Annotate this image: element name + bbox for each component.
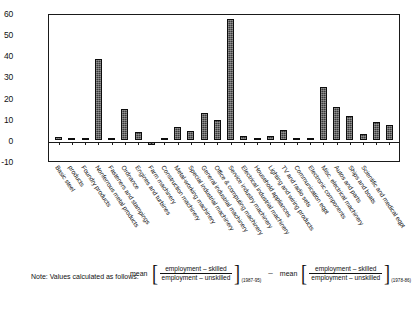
bar-slot: [171, 15, 184, 161]
minus-operator: –: [268, 269, 272, 277]
bar-slot: [118, 15, 131, 161]
bar: [121, 109, 128, 140]
bar-slot: [383, 15, 396, 161]
x-tick-mark: [59, 142, 60, 145]
bar: [174, 127, 181, 140]
x-label-slot: TV and radio sets: [277, 163, 290, 259]
bar-slot: [65, 15, 78, 161]
bar-slot: [158, 15, 171, 161]
bar: [373, 122, 380, 140]
x-tick-mark: [363, 142, 364, 145]
bar-slot: [330, 15, 343, 161]
bar-slot: [343, 15, 356, 161]
chart-figure: 6050403020100-10 Basic steelproductsFoun…: [0, 0, 417, 314]
x-label-slot: Basic steel: [51, 163, 64, 259]
x-tick-mark: [151, 142, 152, 145]
bar-slot: [92, 15, 105, 161]
right-bracket-2: ]: [384, 264, 390, 282]
bar-slot: [224, 15, 237, 161]
x-label-slot: [371, 163, 384, 259]
bar: [187, 131, 194, 140]
bar-slot: [237, 15, 250, 161]
x-label-slot: Office & computing machinery: [211, 163, 224, 259]
x-label-slot: Metal-working machinery: [171, 163, 184, 259]
mean-label-2: mean: [280, 270, 298, 277]
x-label-slot: General industrial machinery: [197, 163, 210, 259]
x-label-slot: Foundry products: [78, 163, 91, 259]
bar: [68, 138, 75, 140]
bar: [108, 138, 115, 140]
x-tick-mark: [178, 142, 179, 145]
bar: [386, 125, 393, 140]
x-tick-mark: [138, 142, 139, 145]
bar-slot: [290, 15, 303, 161]
bar-slot: [198, 15, 211, 161]
y-tick-label: -10: [0, 158, 13, 166]
bar: [360, 134, 367, 140]
bar-slot: [145, 15, 158, 161]
bar-slot: [105, 15, 118, 161]
y-tick-label: 60: [0, 10, 13, 18]
bar: [280, 130, 287, 140]
x-label-slot: Nonferrous metal products: [91, 163, 104, 259]
x-label-slot: Service industry machinery: [224, 163, 237, 259]
mean-label-1: mean: [130, 270, 148, 277]
x-label-slot: Ships and boats: [344, 163, 357, 259]
x-tick-mark: [204, 142, 205, 145]
bar: [227, 19, 234, 140]
bar: [293, 138, 300, 140]
numerator-2: employment – skilled: [313, 265, 379, 273]
bar-slot: [251, 15, 264, 161]
bar-series: [49, 15, 399, 161]
left-bracket-1: [: [152, 264, 158, 282]
x-label-slot: Ordnance: [118, 163, 131, 259]
x-label-slot: Engines and turbines: [131, 163, 144, 259]
x-tick-mark: [297, 142, 298, 145]
bar: [82, 138, 89, 140]
fraction-1: employment – skilled employment – unskil…: [159, 265, 234, 282]
x-label-slot: Construction machinery: [158, 163, 171, 259]
bar: [307, 138, 314, 140]
bar: [320, 87, 327, 139]
x-tick-mark: [270, 142, 271, 145]
bar: [55, 137, 62, 140]
x-label-slot: Electronic components: [304, 163, 317, 259]
x-tick-mark: [350, 142, 351, 145]
x-tick-mark: [112, 142, 113, 145]
bar: [333, 107, 340, 140]
x-tick-mark: [389, 142, 390, 145]
x-label-slot: Fasteners and stampings: [104, 163, 117, 259]
x-tick-mark: [310, 142, 311, 145]
x-label-slot: Farm machinery: [144, 163, 157, 259]
bar-slot: [303, 15, 316, 161]
numerator-1: employment – skilled: [163, 265, 229, 273]
denominator-2: employment – unskilled: [309, 273, 382, 282]
bar: [135, 132, 142, 139]
x-tick-mark: [98, 142, 99, 145]
note-formula: mean [ employment – skilled employment –…: [130, 264, 411, 282]
subscript-1: (1987-95): [241, 278, 261, 283]
bar-slot: [317, 15, 330, 161]
x-label-slot: Communication eqpt: [291, 163, 304, 259]
x-label-slot: Household appliances: [251, 163, 264, 259]
note-prefix: Note: Values calculated as follows:: [31, 272, 139, 281]
bar: [254, 138, 261, 140]
x-label-slot: Autos and parts: [331, 163, 344, 259]
plot-area: [48, 14, 400, 162]
x-tick-mark: [337, 142, 338, 145]
bar: [267, 136, 274, 140]
x-tick-mark: [257, 142, 258, 145]
fraction-2: employment – skilled employment – unskil…: [308, 265, 383, 282]
bar: [240, 136, 247, 139]
x-tick-mark: [164, 142, 165, 145]
formula-term-1: [ employment – skilled employment – unsk…: [151, 264, 262, 282]
y-tick-label: 10: [0, 116, 13, 124]
bar-slot: [131, 15, 144, 161]
right-bracket-1: ]: [234, 264, 240, 282]
x-label-slot: Scientific and medical eqpt: [357, 163, 370, 259]
x-tick-mark: [244, 142, 245, 145]
bar: [201, 113, 208, 140]
x-tick-mark: [72, 142, 73, 145]
x-label-slot: Special industrial machinery: [184, 163, 197, 259]
bar-slot: [184, 15, 197, 161]
